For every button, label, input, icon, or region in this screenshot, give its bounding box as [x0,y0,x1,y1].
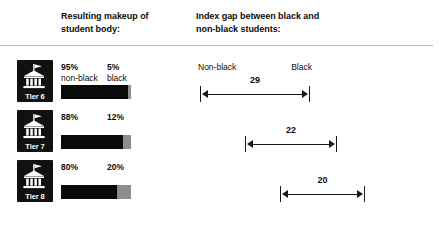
arrow-head-left-icon [247,140,253,148]
gap-tick-left [200,86,201,102]
nonblack-percent-label: non-black [61,73,98,84]
gap-value: 22 [245,125,337,136]
gap-value: 20 [280,175,365,186]
tier-row: Tier 8 80% 20% 20 [0,158,439,208]
arrow-head-left-icon [202,90,208,98]
nonblack-percent-value: 95% [61,62,98,73]
gap-label-black: Black [291,62,312,73]
gap-value: 29 [200,75,310,86]
arrow-line [248,144,334,145]
bar-segment-nonblack [61,85,128,99]
gap-tick-right [336,136,337,152]
gap-end-labels: Non-black Black [200,62,310,74]
tier-row: Tier 6 95% non-black 5% black Non-black … [0,58,439,108]
arrow-line [283,194,362,195]
gap-tick-right [309,86,310,102]
column-header-student-makeup: Resulting makeup of student body: [61,10,196,35]
bar-segment-nonblack [61,135,123,149]
tier-label: Tier 8 [17,192,53,201]
index-gap-arrow-group: 20 [280,158,365,208]
nonblack-percent-group: 80% [61,162,78,173]
column-header-index-gap: Index gap between black and non-black st… [196,10,371,35]
double-headed-arrow-icon [200,86,310,102]
nonblack-percent-value: 80% [61,162,78,173]
tier-label: Tier 7 [17,142,53,151]
stacked-percentage-bar [61,135,131,149]
double-headed-arrow-icon [280,186,365,202]
gap-tick-right [364,186,365,202]
college-building-flag-icon: Tier 8 [17,160,53,202]
arrow-head-left-icon [282,190,288,198]
index-gap-arrow-group: 22 [245,108,337,158]
arrow-head-right-icon [329,140,335,148]
double-headed-arrow-icon [245,136,337,152]
arrow-head-right-icon [302,90,308,98]
gap-tick-left [280,186,281,202]
college-building-flag-icon: Tier 7 [17,110,53,152]
gap-label-nonblack: Non-black [198,62,236,73]
index-gap-arrow-group: Non-black Black 29 [200,58,310,108]
black-percent-value: 12% [107,112,124,123]
black-percent-value: 20% [107,162,124,173]
black-percent-value: 5% [107,62,127,73]
black-percent-label: black [107,73,127,84]
college-building-flag-icon: Tier 6 [17,60,53,102]
nonblack-percent-group: 88% [61,112,78,123]
gap-tick-left [245,136,246,152]
tier-label: Tier 6 [17,92,53,101]
arrow-head-right-icon [357,190,363,198]
infographic-root: Resulting makeup of student body: Index … [0,0,439,232]
stacked-percentage-bar [61,185,131,199]
header-divider-rule [0,45,433,46]
stacked-percentage-bar [61,85,131,99]
tier-row: Tier 7 88% 12% 22 [0,108,439,158]
arrow-line [203,94,307,95]
black-percent-group: 12% [107,112,124,123]
bar-segment-nonblack [61,185,117,199]
black-percent-group: 20% [107,162,124,173]
nonblack-percent-group: 95% non-black [61,62,98,83]
black-percent-group: 5% black [107,62,127,83]
nonblack-percent-value: 88% [61,112,78,123]
